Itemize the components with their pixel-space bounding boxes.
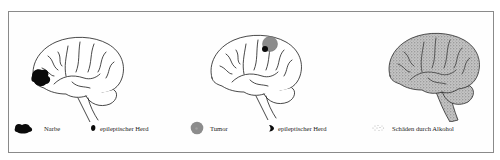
legend-item-tumor: Tumor — [190, 121, 228, 135]
scar-symbol-icon — [14, 122, 34, 134]
legend-item-epileptic-focus-1: epileptischer Herd — [90, 121, 149, 135]
scar-region — [31, 69, 50, 86]
legend-label-epileptic-focus-2: epileptischer Herd — [278, 125, 327, 132]
legend-item-alcohol-damage: Schäden durch Alkohol — [371, 121, 454, 135]
brain-scar-illustration — [28, 32, 128, 122]
epileptic-focus-region — [262, 46, 268, 52]
legend-item-epileptic-focus-2: epileptischer Herd — [268, 121, 327, 135]
legend-label-scar: Narbe — [44, 125, 60, 132]
brain-alcohol-illustration — [384, 30, 484, 122]
epileptic-focus-symbol-icon — [268, 124, 274, 132]
stipple-symbol-icon — [371, 124, 385, 132]
legend-label-epileptic-focus-1: epileptischer Herd — [100, 125, 149, 132]
brain-tumor-illustration — [206, 30, 306, 120]
legend-item-scar: Narbe — [14, 121, 60, 135]
legend-label-tumor: Tumor — [210, 125, 228, 132]
tumor-symbol-icon — [190, 121, 204, 135]
epileptic-focus-symbol-icon — [90, 124, 96, 132]
legend-label-alcohol-damage: Schäden durch Alkohol — [392, 125, 454, 132]
